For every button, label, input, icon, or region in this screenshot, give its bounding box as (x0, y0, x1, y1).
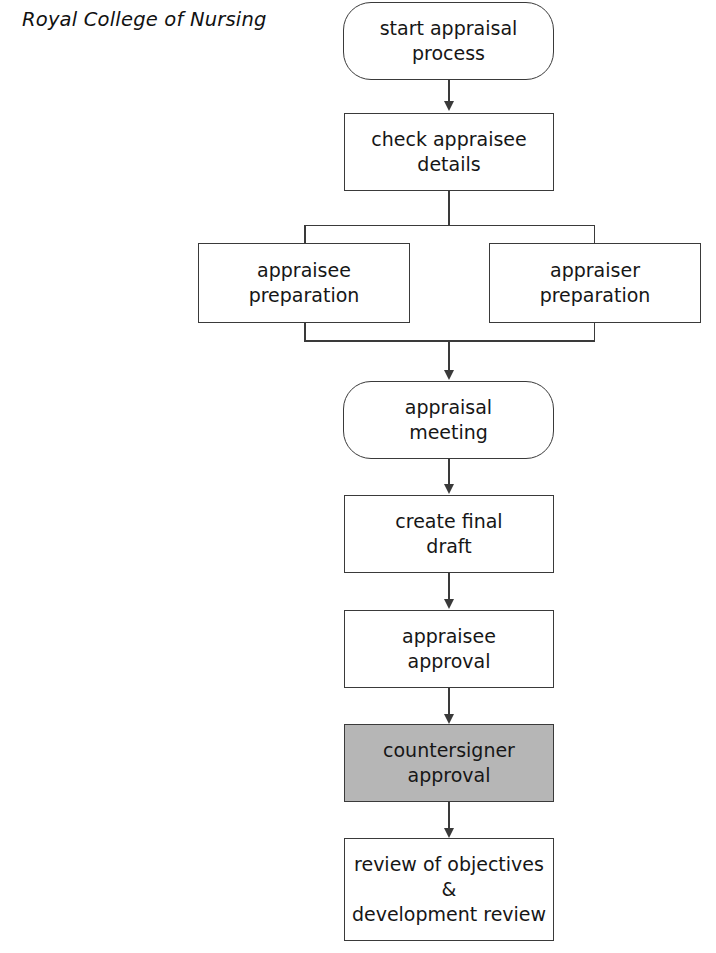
node-check-appraisee-details[interactable]: check appraisee details (344, 113, 554, 191)
arrowhead-icon (444, 370, 454, 380)
node-appraisal-meeting[interactable]: appraisal meeting (343, 381, 554, 459)
node-line: preparation (249, 283, 360, 308)
arrowhead-icon (444, 599, 454, 609)
edge-start-to-check-details (448, 80, 450, 103)
arrowhead-icon (444, 828, 454, 838)
node-line: appraisee (257, 258, 351, 283)
node-line: appraisee (402, 624, 496, 649)
arrowhead-icon (444, 484, 454, 494)
node-line: details (417, 152, 480, 177)
node-line: development review (352, 902, 546, 927)
node-line: appraisal (405, 395, 492, 420)
node-line: review of objectives (354, 852, 544, 877)
edge-appraiser-prep-to-merge (594, 323, 596, 342)
node-line: check appraisee (371, 127, 526, 152)
node-appraisee-approval[interactable]: appraisee approval (344, 610, 554, 688)
node-appraiser-preparation[interactable]: appraiser preparation (489, 243, 701, 323)
node-line: process (412, 41, 485, 66)
arrowhead-icon (444, 101, 454, 111)
node-line: appraiser (550, 258, 640, 283)
node-review-of-objectives[interactable]: review of objectives & development revie… (344, 838, 554, 941)
edge-appraisee-approval-to-countersigner-approval (448, 688, 450, 716)
node-create-final-draft[interactable]: create final draft (344, 495, 554, 573)
node-line: create final (395, 509, 502, 534)
edge-split-bar (304, 225, 595, 227)
node-line: countersigner (383, 738, 515, 763)
edge-split-to-appraiser-prep (594, 225, 596, 244)
node-start-appraisal-process[interactable]: start appraisal process (343, 2, 554, 80)
node-line: draft (426, 534, 471, 559)
node-line: approval (408, 649, 491, 674)
node-appraisee-preparation[interactable]: appraisee preparation (198, 243, 410, 323)
node-line: preparation (540, 283, 651, 308)
node-line: meeting (409, 420, 488, 445)
flowchart-canvas: Royal College of Nursing start appraisal… (0, 0, 716, 953)
edge-merge-to-appraisal-meeting (448, 340, 450, 372)
arrowhead-icon (444, 714, 454, 724)
edge-countersigner-approval-to-review-objectives (448, 802, 450, 830)
page-title: Royal College of Nursing (22, 8, 267, 31)
node-countersigner-approval[interactable]: countersigner approval (344, 724, 554, 802)
edge-split-to-appraisee-prep (304, 225, 306, 244)
node-line: approval (408, 763, 491, 788)
edge-appraisee-prep-to-merge (304, 323, 306, 342)
edge-create-final-draft-to-appraisee-approval (448, 573, 450, 601)
edge-split-stem (448, 191, 450, 226)
node-line: start appraisal (380, 16, 518, 41)
node-line: & (442, 877, 457, 902)
edge-appraisal-meeting-to-create-final-draft (448, 459, 450, 486)
